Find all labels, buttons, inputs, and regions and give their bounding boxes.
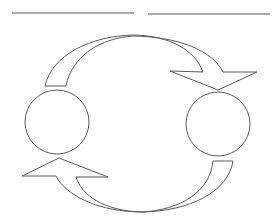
left-node-circle[interactable] xyxy=(25,90,89,154)
top-curved-arrow-icon xyxy=(45,35,257,90)
cycle-diagram xyxy=(0,0,280,224)
right-node-circle[interactable] xyxy=(186,92,250,156)
bottom-curved-arrow-icon xyxy=(22,158,233,212)
